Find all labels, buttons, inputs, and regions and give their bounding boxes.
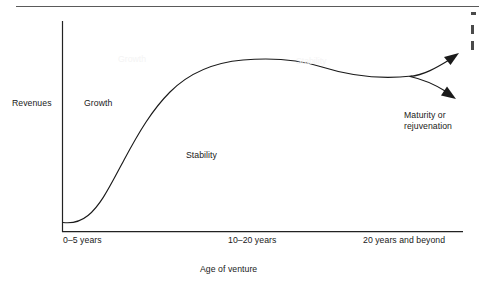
annotation-maturity-or-rejuvenation: Maturity or rejuvenation xyxy=(404,110,452,131)
cropped-glyph-2 xyxy=(471,25,474,34)
branch-rejuvenation-line xyxy=(410,60,450,77)
revenue-curve xyxy=(63,59,412,223)
cropped-caption-edge xyxy=(471,12,479,50)
x-tick-label-0: 0–5 years xyxy=(63,235,102,246)
cropped-glyph-3 xyxy=(471,41,474,50)
chart-canvas xyxy=(0,0,479,295)
annotation-maturity-line-1: Maturity or xyxy=(404,110,446,120)
x-tick-label-1: 10–20 years xyxy=(228,235,276,246)
branch-maturity-arrowhead xyxy=(441,87,456,100)
annotation-growth: Growth xyxy=(84,98,112,109)
annotation-stability: Stability xyxy=(186,150,217,161)
branch-maturity-line xyxy=(410,77,446,92)
figure-container: Growth Stability Revenues Age of venture… xyxy=(0,0,479,295)
annotation-maturity-line-2: rejuvenation xyxy=(404,121,452,131)
branch-rejuvenation-arrowhead xyxy=(444,53,459,65)
x-axis-label: Age of venture xyxy=(200,264,257,275)
cropped-glyph-1 xyxy=(471,12,476,15)
y-axis-label: Revenues xyxy=(12,98,52,109)
x-tick-label-2: 20 years and beyond xyxy=(363,235,445,246)
